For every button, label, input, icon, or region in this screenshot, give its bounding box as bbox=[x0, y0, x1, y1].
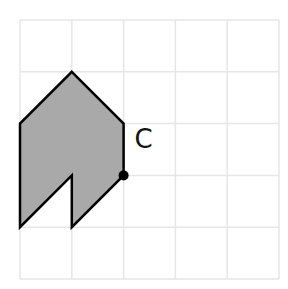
grid-diagram: C bbox=[0, 0, 288, 289]
point-c-label: C bbox=[135, 124, 153, 154]
point-c-marker bbox=[119, 170, 129, 180]
shaded-polygon bbox=[20, 72, 124, 227]
